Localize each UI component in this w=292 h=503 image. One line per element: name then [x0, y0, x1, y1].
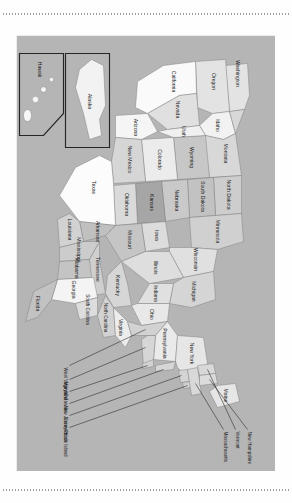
label-north-dakota: North Dakota — [225, 179, 231, 209]
label-alabama: Alabama — [73, 258, 79, 278]
label-indiana: Indiana — [152, 285, 158, 302]
label-ohio: Ohio — [148, 309, 154, 320]
label-kentucky: Kentucky — [114, 275, 120, 296]
map-rotation-group: Washington Oregon California Nevada Idah… — [16, 35, 275, 471]
label-idaho: Idaho — [214, 119, 220, 132]
label-arkansas: Arkansas — [94, 220, 100, 242]
label-minnesota: Minnesota — [214, 219, 220, 243]
label-massachusetts: Massachusetts — [222, 431, 227, 462]
label-hawaii: Hawaii — [36, 61, 42, 76]
label-wisconsin: Wisconsin — [192, 247, 198, 270]
label-pennsylvania: Pennsylvania — [161, 328, 167, 358]
label-missouri: Missouri — [126, 230, 132, 249]
label-california: California — [170, 70, 176, 92]
label-nebraska: Nebraska — [173, 189, 179, 211]
label-arizona: Arizona — [132, 118, 138, 135]
label-vermont: Vermont — [234, 431, 239, 449]
label-oregon: Oregon — [210, 73, 216, 90]
us-choropleth-map[interactable]: Washington Oregon California Nevada Idah… — [16, 35, 275, 471]
label-florida: Florida — [34, 295, 40, 311]
label-utah: Utah — [180, 126, 186, 137]
label-new-york: New York — [188, 342, 194, 364]
label-new-hampshire: New Hampshire — [246, 431, 251, 464]
map-svg: Washington Oregon California Nevada Idah… — [16, 35, 275, 471]
label-kansas: Kansas — [148, 194, 154, 211]
label-rhode-island: Rhode Island — [62, 429, 67, 457]
page-canvas: Washington Oregon California Nevada Idah… — [0, 0, 292, 503]
label-alaska: Alaska — [86, 93, 92, 108]
label-montana: Montana — [222, 143, 228, 163]
label-michigan: Michigan — [190, 281, 196, 302]
label-georgia: Georgia — [70, 280, 76, 298]
dotted-rule-top — [2, 13, 290, 15]
label-tennessee: Tennessee — [94, 257, 100, 282]
label-oklahoma: Oklahoma — [123, 192, 129, 215]
label-south-carolina: South Carolina — [84, 294, 89, 325]
label-maine: Maine — [222, 388, 228, 402]
label-washington: Washington — [234, 60, 240, 87]
dotted-rule-bottom — [2, 489, 290, 491]
label-new-mexico: New Mexico — [126, 145, 132, 173]
label-virginia: Virginia — [117, 319, 123, 336]
label-louisiana: Louisiana — [66, 218, 72, 240]
label-south-dakota: South Dakota — [199, 181, 205, 212]
label-colorado: Colorado — [156, 149, 162, 170]
label-texas: Texas — [90, 180, 96, 194]
label-iowa: Iowa — [153, 230, 159, 241]
label-wyoming: Wyoming — [188, 146, 194, 167]
label-nevada: Nevada — [174, 100, 180, 118]
label-illinois: Illinois — [152, 260, 158, 275]
label-north-carolina: North Carolina — [102, 302, 107, 332]
